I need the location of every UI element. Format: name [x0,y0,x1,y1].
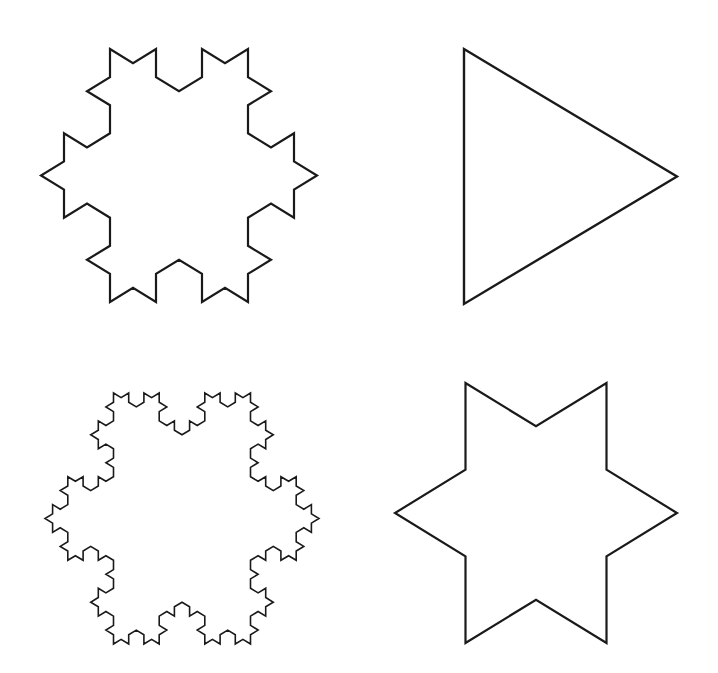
koch-order-1-star [395,383,677,643]
koch-order-0-triangle [464,49,677,304]
koch-order-2-shape [41,49,317,302]
koch-diagram-canvas [0,0,718,673]
koch-order-3-shape [45,393,319,644]
